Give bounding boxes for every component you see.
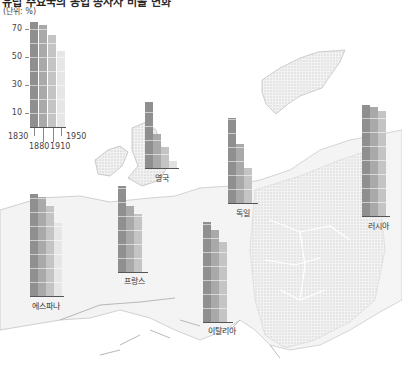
bar-germany-1830: [228, 118, 236, 203]
label-uk: 영국: [155, 172, 169, 183]
y-tick-line: [25, 57, 29, 58]
chart-italy: [203, 222, 233, 322]
y-tick-30: 30: [2, 80, 22, 89]
bar-france-1880: [126, 206, 134, 272]
bar-spain-1910: [46, 206, 54, 296]
label-france: 프랑스: [124, 275, 145, 286]
legend-bar-1950: [57, 51, 65, 127]
bar-spain-1880: [38, 197, 46, 296]
bar-spain-1950: [54, 223, 62, 296]
legend-bar-1910: [48, 35, 56, 127]
y-tick-line: [25, 85, 29, 86]
bar-russia-1830: [362, 105, 370, 216]
bar-uk-1950: [169, 161, 177, 168]
germany-baseline: [228, 203, 258, 204]
russia-baseline: [362, 216, 390, 217]
x-tick-1830: 1830: [8, 132, 28, 141]
chart-uk: [145, 102, 179, 168]
x-tick-line-1830: [34, 128, 35, 136]
y-tick-50: 50: [2, 52, 22, 61]
bar-germany-1880: [236, 144, 244, 203]
bar-germany-1910: [244, 168, 252, 203]
x-tick-line-1950: [61, 128, 62, 136]
x-tick-1910: 1910: [50, 142, 70, 151]
bar-italy-1910: [219, 242, 227, 322]
label-russia: 러시아: [368, 220, 389, 231]
italy-baseline: [203, 322, 233, 323]
label-germany: 독일: [236, 207, 250, 218]
legend-bar-1830: [30, 22, 38, 127]
bar-spain-1830: [30, 194, 38, 296]
y-tick-line: [25, 113, 29, 114]
y-tick-10: 10: [2, 108, 22, 117]
bar-italy-1830: [203, 222, 211, 322]
bar-italy-1880: [211, 230, 219, 322]
x-tick-1950: 1950: [66, 132, 86, 141]
x-tick-1880: 1880: [29, 142, 49, 151]
label-spain: 에스파나: [32, 300, 60, 311]
legend-bar-1880: [39, 25, 47, 127]
bar-uk-1880: [153, 134, 161, 168]
chart-spain: [30, 194, 64, 296]
bar-russia-1910: [378, 111, 386, 216]
bar-uk-1830: [145, 102, 153, 168]
bar-uk-1910: [161, 147, 169, 168]
chart-russia: [362, 105, 390, 216]
france-baseline: [118, 272, 148, 273]
y-tick-line: [25, 29, 29, 30]
bar-france-1910: [134, 214, 142, 272]
bar-france-1830: [118, 186, 126, 272]
legend-chart: [30, 20, 66, 127]
label-italy: 이탈리아: [208, 325, 236, 336]
uk-baseline: [145, 168, 179, 169]
bar-russia-1880: [370, 107, 378, 216]
chart-france: [118, 186, 148, 272]
x-tick-line-1910: [53, 128, 54, 142]
x-tick-line-1880: [43, 128, 44, 142]
chart-germany: [228, 118, 258, 203]
y-tick-70: 70: [2, 24, 22, 33]
spain-baseline: [30, 296, 64, 297]
